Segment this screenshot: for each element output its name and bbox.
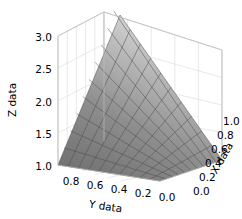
y-tick-label: 0.4	[111, 183, 128, 195]
z-tick-label: 2.0	[35, 96, 52, 108]
figure-canvas: 3.0 2.5 2.0 1.5 1.0 0.8 0.6 0.4 0.2 0.0 …	[0, 0, 242, 219]
z-tick-labels: 3.0 2.5 2.0 1.5 1.0	[35, 31, 52, 172]
x-tick-label: 0.0	[193, 185, 210, 197]
y-tick-label: 0.6	[87, 179, 104, 191]
y-tick-label: 0.2	[135, 187, 152, 199]
z-tick-label: 2.5	[35, 63, 52, 75]
z-tick-label: 3.0	[35, 31, 52, 43]
z-tick-label: 1.5	[35, 128, 52, 140]
y-axis-title: Y data	[87, 197, 123, 214]
y-tick-label: 0.8	[63, 175, 80, 187]
z-axis-title: Z data	[6, 83, 18, 117]
y-tick-label: 0.0	[159, 191, 176, 203]
surface-plot-3d: 3.0 2.5 2.0 1.5 1.0 0.8 0.6 0.4 0.2 0.0 …	[0, 0, 242, 219]
z-tick-label: 1.0	[35, 160, 52, 172]
x-tick-label: 1.0	[223, 115, 240, 127]
x-tick-label: 0.8	[217, 129, 234, 141]
